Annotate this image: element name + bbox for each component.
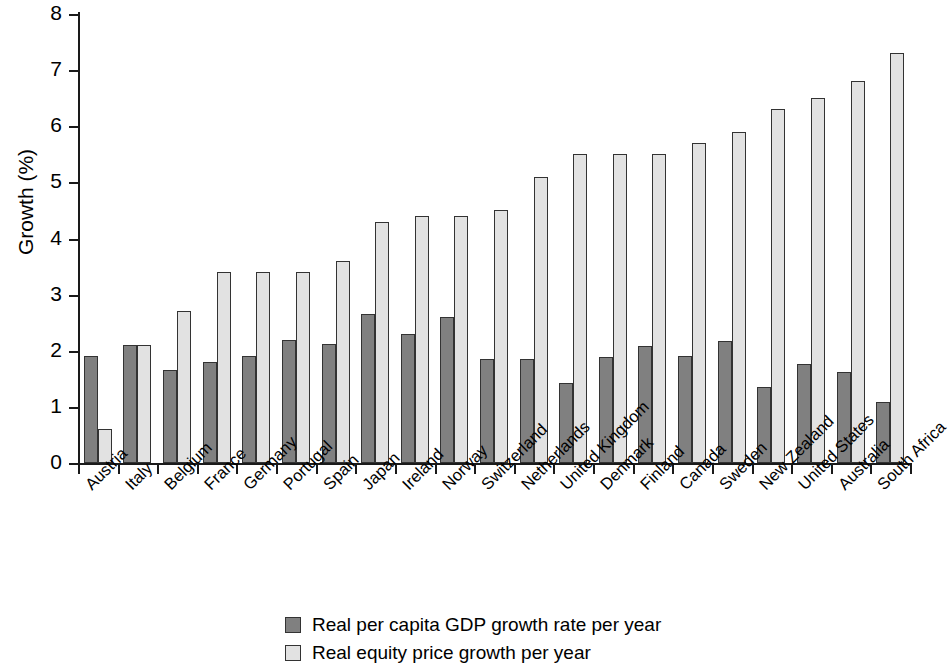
bar-gdp bbox=[123, 345, 137, 463]
bar-equity bbox=[454, 216, 468, 463]
y-axis-tick-label: 6 bbox=[50, 114, 62, 135]
bar-equity bbox=[375, 222, 389, 463]
bar-equity bbox=[415, 216, 429, 463]
chart-legend: Real per capita GDP growth rate per year… bbox=[285, 611, 805, 667]
y-axis-tick: 6 bbox=[69, 126, 78, 128]
legend-item-gdp: Real per capita GDP growth rate per year bbox=[285, 611, 805, 639]
bar-equity bbox=[771, 109, 785, 463]
bar-equity bbox=[732, 132, 746, 463]
y-axis-tick: 7 bbox=[69, 70, 78, 72]
y-axis-tick-label: 1 bbox=[50, 395, 62, 416]
bar-equity bbox=[692, 143, 706, 463]
bar-gdp bbox=[84, 356, 98, 463]
legend-label-gdp: Real per capita GDP growth rate per year bbox=[312, 614, 661, 636]
y-axis-tick-label: 7 bbox=[50, 58, 62, 79]
y-axis-tick-label: 8 bbox=[50, 2, 62, 23]
y-axis-tick: 3 bbox=[69, 295, 78, 297]
bar-equity bbox=[336, 261, 350, 463]
y-axis-tick: 4 bbox=[69, 239, 78, 241]
plot-area: 876543210 bbox=[78, 14, 910, 463]
y-axis-tick-label: 4 bbox=[50, 227, 62, 248]
bar-gdp bbox=[440, 317, 454, 463]
bar-gdp bbox=[361, 314, 375, 463]
bar-equity bbox=[137, 345, 151, 463]
x-axis-tick bbox=[157, 463, 159, 474]
y-axis-tick: 0 bbox=[69, 463, 78, 465]
y-axis-tick-label: 0 bbox=[50, 451, 62, 472]
x-axis-tick bbox=[78, 463, 80, 474]
bar-gdp bbox=[401, 334, 415, 463]
bar-equity bbox=[256, 272, 270, 463]
y-axis-tick-label: 2 bbox=[50, 339, 62, 360]
bar-equity bbox=[494, 210, 508, 463]
bar-equity bbox=[177, 311, 191, 463]
bar-equity bbox=[890, 53, 904, 463]
bar-equity bbox=[652, 154, 666, 463]
y-axis-title: Growth (%) bbox=[14, 112, 38, 292]
y-axis-tick-label: 5 bbox=[50, 170, 62, 191]
legend-item-equity: Real equity price growth per year bbox=[285, 639, 805, 667]
legend-label-equity: Real equity price growth per year bbox=[312, 642, 591, 664]
bar-equity bbox=[811, 98, 825, 463]
bar-equity bbox=[851, 81, 865, 463]
y-axis-tick-label: 3 bbox=[50, 283, 62, 304]
y-axis-tick: 1 bbox=[69, 407, 78, 409]
bar-gdp bbox=[242, 356, 256, 463]
bar-gdp bbox=[163, 370, 177, 463]
legend-swatch-equity-icon bbox=[285, 645, 301, 661]
bar-equity bbox=[296, 272, 310, 463]
y-axis-tick: 5 bbox=[69, 182, 78, 184]
bar-equity bbox=[217, 272, 231, 463]
y-axis-tick: 8 bbox=[69, 14, 78, 16]
legend-swatch-gdp-icon bbox=[285, 617, 301, 633]
y-axis-tick: 2 bbox=[69, 351, 78, 353]
